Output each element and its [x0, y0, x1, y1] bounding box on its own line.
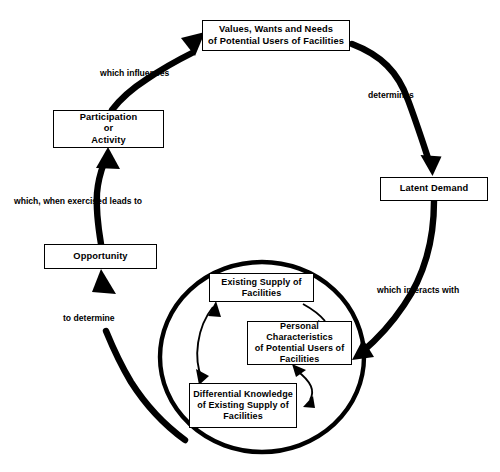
node-differential-knowledge-label: Differential Knowledge of Existing Suppl… — [190, 389, 296, 422]
edge-values-to-latent-demand — [352, 44, 442, 176]
node-opportunity[interactable]: Opportunity — [44, 244, 157, 269]
node-opportunity-label: Opportunity — [45, 251, 156, 262]
node-existing-supply-label: Existing Supply of Facilities — [210, 277, 313, 299]
edge-label-which-when-exercised-leads-to: which, when exercised leads to — [14, 197, 142, 206]
edge-existing-supply-diff-knowledge — [196, 301, 221, 385]
node-participation-or-activity[interactable]: Participation or Activity — [53, 110, 164, 148]
edge-label-determines: determines — [368, 91, 414, 100]
edge-label-to-determine: to determine — [63, 314, 115, 323]
node-latent-demand[interactable]: Latent Demand — [380, 177, 488, 201]
node-participation-label: Participation or Activity — [54, 112, 163, 146]
diagram-canvas: Values, Wants and Needs of Potential Use… — [0, 0, 500, 472]
edge-label-which-interacts-with: which interacts with — [377, 286, 459, 295]
node-differential-knowledge[interactable]: Differential Knowledge of Existing Suppl… — [189, 383, 297, 428]
node-values-label: Values, Wants and Needs of Potential Use… — [203, 24, 349, 47]
edge-latent-demand-to-circle — [352, 201, 434, 360]
node-latent-demand-label: Latent Demand — [381, 183, 487, 194]
edge-circle-to-opportunity — [92, 269, 185, 440]
node-existing-supply-of-facilities[interactable]: Existing Supply of Facilities — [209, 273, 314, 302]
edge-label-which-influences: which influences — [100, 69, 169, 78]
node-values-wants-needs[interactable]: Values, Wants and Needs of Potential Use… — [202, 20, 350, 51]
node-personal-characteristics[interactable]: Personal Characteristics of Potential Us… — [247, 321, 352, 365]
node-personal-characteristics-label: Personal Characteristics of Potential Us… — [248, 321, 351, 365]
